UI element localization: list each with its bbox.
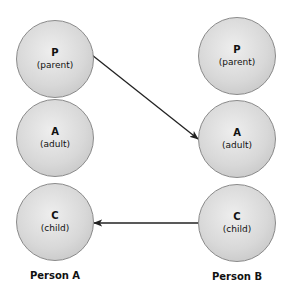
node-role: (parent) [37, 59, 74, 71]
arrow-pa-parent-to-pb-adult [92, 55, 198, 139]
node-role: (adult) [40, 138, 70, 150]
person-b-parent-node: P (parent) [198, 17, 276, 95]
node-letter: C [233, 211, 240, 223]
person-b-label: Person B [192, 271, 282, 282]
person-a-parent-node: P (parent) [16, 20, 94, 98]
person-a-adult-node: A (adult) [16, 99, 94, 177]
person-b-adult-node: A (adult) [198, 100, 276, 178]
node-letter: P [233, 44, 240, 56]
node-role: (child) [223, 223, 251, 235]
node-letter: A [51, 126, 59, 138]
node-role: (parent) [219, 56, 256, 68]
person-a-label: Person A [10, 270, 100, 281]
person-b-child-node: C (child) [198, 184, 276, 262]
person-a-child-node: C (child) [16, 183, 94, 261]
node-role: (child) [41, 222, 69, 234]
node-role: (adult) [222, 139, 252, 151]
node-letter: P [51, 47, 58, 59]
node-letter: A [233, 127, 241, 139]
node-letter: C [51, 210, 58, 222]
